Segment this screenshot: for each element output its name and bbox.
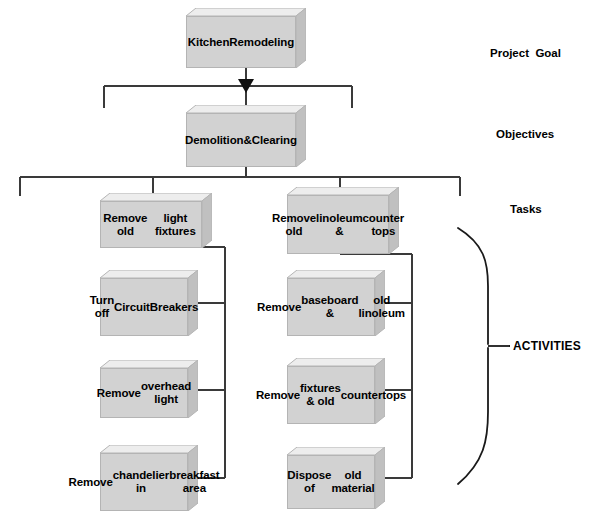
- node-text-line: Circuit: [114, 301, 150, 314]
- node-label: Remove chandelier in breakfast area: [100, 453, 188, 511]
- activities-brace: [0, 0, 604, 519]
- node-kitchen-remodeling[interactable]: Kitchen Remodeling: [186, 8, 306, 68]
- node-dispose-of-old-material[interactable]: Dispose of old material: [287, 447, 385, 509]
- node-text-line: Remove old: [272, 212, 316, 238]
- node-label: Kitchen Remodeling: [186, 16, 296, 68]
- node-label: Remove fixtures & old countertops: [287, 366, 375, 424]
- node-label: Remove old linoleum & counter tops: [287, 195, 389, 254]
- node-text-line: Remove old: [101, 212, 150, 238]
- node-label: Demolition & Clearing: [186, 113, 296, 167]
- node-remove-old-linoleum-counter-tops[interactable]: Remove old linoleum & counter tops: [287, 187, 399, 254]
- node-remove-old-light-fixtures[interactable]: Remove old light fixtures: [100, 193, 212, 248]
- node-label: Remove overhead light: [100, 368, 188, 418]
- node-text-line: fixtures & old: [300, 382, 341, 408]
- node-text-line: Remove: [69, 476, 113, 489]
- node-text-line: Remove: [256, 389, 300, 402]
- node-remove-fixtures-old-countertops[interactable]: Remove fixtures & old countertops: [287, 358, 385, 424]
- node-label: Remove baseboard & old linoleum: [287, 278, 375, 336]
- node-text-line: Demolition: [185, 134, 243, 147]
- node-text-line: linoleum &: [316, 212, 362, 238]
- node-text-line: chandelier in: [113, 469, 170, 495]
- node-text-line: Remove: [97, 387, 141, 400]
- level-label-project-goal: Project Goal: [490, 47, 561, 59]
- level-label-activities: ACTIVITIES: [513, 339, 581, 353]
- node-demolition-clearing[interactable]: Demolition & Clearing: [186, 105, 306, 167]
- node-text-line: Dispose of: [287, 469, 331, 495]
- node-turn-off-circuit-breakers[interactable]: Turn off Circuit Breakers: [100, 270, 198, 336]
- node-text-line: overhead light: [141, 380, 191, 406]
- node-remove-baseboard-old-linoleum[interactable]: Remove baseboard & old linoleum: [287, 270, 385, 336]
- node-text-line: old linoleum: [358, 294, 404, 320]
- node-text-line: counter tops: [363, 212, 404, 238]
- node-remove-overhead-light[interactable]: Remove overhead light: [100, 360, 198, 418]
- level-label-tasks: Tasks: [510, 203, 542, 215]
- connector-lines: [0, 0, 604, 519]
- node-label: Turn off Circuit Breakers: [100, 278, 188, 336]
- node-text-line: Kitchen: [188, 36, 229, 49]
- level-label-objectives: Objectives: [496, 128, 554, 140]
- node-text-line: Turn off: [90, 294, 114, 320]
- node-text-line: Breakers: [150, 301, 198, 314]
- node-text-line: &: [244, 134, 252, 147]
- node-label: Remove old light fixtures: [100, 201, 202, 248]
- node-text-line: breakfast area: [169, 469, 219, 495]
- node-text-line: baseboard &: [301, 294, 358, 320]
- node-text-line: countertops: [341, 389, 406, 402]
- node-label: Dispose of old material: [287, 455, 375, 509]
- node-text-line: Remove: [257, 301, 301, 314]
- arrowhead: [238, 79, 254, 93]
- node-text-line: Clearing: [252, 134, 297, 147]
- node-text-line: light fixtures: [150, 212, 201, 238]
- wbs-diagram-canvas: Kitchen Remodeling Demolition & Clearing…: [0, 0, 604, 519]
- node-remove-chandelier-breakfast-area[interactable]: Remove chandelier in breakfast area: [100, 445, 198, 511]
- node-text-line: old material: [331, 469, 374, 495]
- node-text-line: Remodeling: [229, 36, 294, 49]
